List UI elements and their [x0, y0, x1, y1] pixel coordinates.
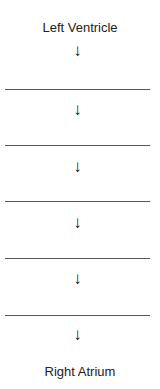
down-arrow-icon: ↓ — [0, 270, 155, 287]
blank-line-4[interactable] — [5, 258, 150, 259]
blank-line-5[interactable] — [5, 315, 150, 316]
blank-line-3[interactable] — [5, 201, 150, 202]
down-arrow-icon: ↓ — [0, 214, 155, 231]
down-arrow-icon: ↓ — [0, 158, 155, 175]
down-arrow-icon: ↓ — [0, 326, 155, 343]
down-arrow-icon: ↓ — [0, 101, 155, 118]
blank-line-2[interactable] — [5, 145, 150, 146]
label-right-atrium: Right Atrium — [0, 364, 160, 379]
label-left-ventricle: Left Ventricle — [0, 20, 160, 35]
blank-line-1[interactable] — [5, 89, 150, 90]
down-arrow-icon: ↓ — [0, 42, 155, 59]
